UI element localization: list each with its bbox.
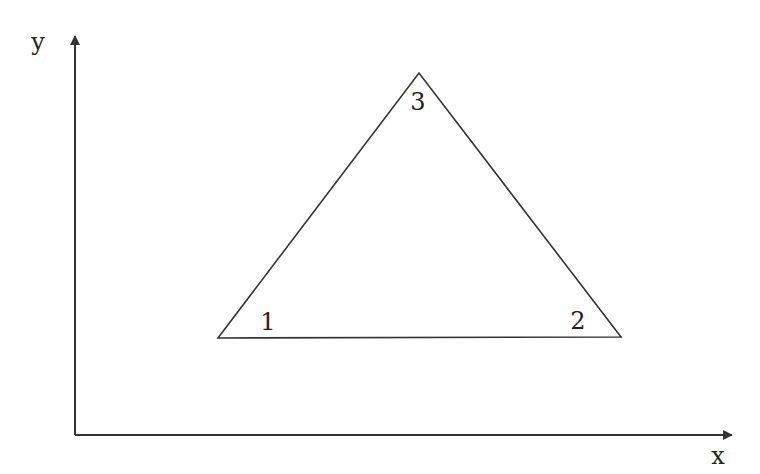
x-axis-label: x [711,442,725,470]
vertex-label-2: 2 [570,307,585,335]
vertex-label-1: 1 [260,308,275,336]
y-axis-label: y [30,28,45,56]
coordinate-diagram: y x 1 2 3 [0,0,760,474]
vertex-label-3: 3 [410,88,425,116]
